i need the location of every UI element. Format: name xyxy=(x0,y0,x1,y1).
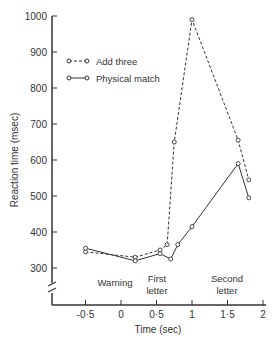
svg-text:Warning: Warning xyxy=(97,277,132,288)
svg-text:1000: 1000 xyxy=(25,11,48,22)
svg-text:700: 700 xyxy=(30,119,47,130)
svg-text:500: 500 xyxy=(30,191,47,202)
svg-text:400: 400 xyxy=(30,227,47,238)
svg-text:-0·5: -0·5 xyxy=(77,309,95,320)
svg-text:letter: letter xyxy=(216,285,237,296)
svg-text:Reaction time (msec): Reaction time (msec) xyxy=(9,113,20,207)
reaction-time-chart: 3004005006007008009001000-0·500·511·52Ti… xyxy=(0,0,279,344)
svg-text:2: 2 xyxy=(260,309,266,320)
axis-break-icon xyxy=(48,282,56,292)
svg-text:800: 800 xyxy=(30,83,47,94)
svg-text:900: 900 xyxy=(30,47,47,58)
svg-text:1: 1 xyxy=(189,309,195,320)
svg-text:600: 600 xyxy=(30,155,47,166)
svg-text:0·5: 0·5 xyxy=(149,309,164,320)
svg-text:300: 300 xyxy=(30,263,47,274)
svg-text:Time (sec): Time (sec) xyxy=(135,324,182,335)
svg-text:Add three: Add three xyxy=(96,56,137,67)
svg-text:0: 0 xyxy=(118,309,124,320)
svg-text:First: First xyxy=(148,273,167,284)
svg-text:Second: Second xyxy=(211,273,243,284)
svg-text:letter: letter xyxy=(146,285,167,296)
svg-text:1·5: 1·5 xyxy=(220,309,235,320)
svg-text:Physical match: Physical match xyxy=(96,73,160,84)
